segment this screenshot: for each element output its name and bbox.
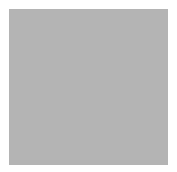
go-board[interactable] (9, 9, 168, 165)
